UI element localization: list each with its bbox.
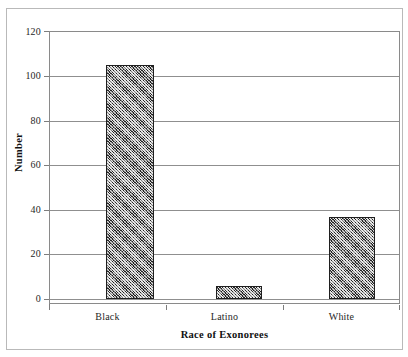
gridline-40 [50, 210, 399, 211]
y-tick-label-120: 120 [11, 27, 41, 37]
x-tick-mark-1 [166, 305, 167, 310]
gridline-60 [50, 165, 399, 166]
y-tick-label-100: 100 [11, 71, 41, 81]
gridline-80 [50, 121, 399, 122]
gridline-100 [50, 76, 399, 77]
y-tick-label-20: 20 [11, 249, 41, 259]
y-axis-title: Number [13, 121, 24, 185]
x-tick-mark-left [49, 305, 50, 310]
chart-figure: 120 100 80 60 40 20 0 Number Black [6, 8, 403, 350]
x-tick-mark-right [399, 305, 400, 310]
y-tick-label-0: 0 [11, 294, 41, 304]
gridline-0 [50, 299, 399, 300]
bar-white[interactable] [329, 217, 375, 299]
plot-area [49, 31, 400, 304]
x-tick-label-black: Black [49, 311, 166, 322]
x-tick-label-white: White [283, 311, 400, 322]
bar-latino[interactable] [216, 286, 262, 299]
x-axis-title: Race of Exonorees [49, 329, 400, 340]
x-tick-label-latino: Latino [166, 311, 283, 322]
bar-black[interactable] [106, 65, 154, 299]
y-tick-label-40: 40 [11, 205, 41, 215]
x-tick-mark-2 [283, 305, 284, 310]
